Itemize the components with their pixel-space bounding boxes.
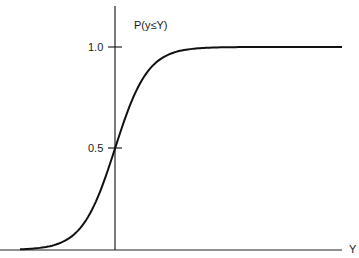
y-tick-label-1-0: 1.0 bbox=[88, 42, 103, 53]
cdf-chart bbox=[0, 0, 359, 258]
y-axis-title: P(y≤Y) bbox=[134, 20, 168, 31]
y-tick-label-0-5: 0.5 bbox=[88, 143, 103, 154]
x-axis-title: Y bbox=[349, 244, 356, 255]
cdf-curve bbox=[20, 47, 342, 249]
